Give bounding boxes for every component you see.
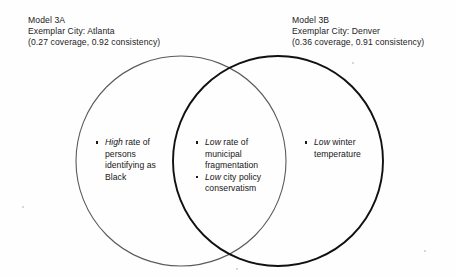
region-text-left-only: High rate of persons identifying as Blac… [96,137,174,183]
list-item: Low city policy conservatism [196,172,284,195]
bullet-square-icon [96,141,98,143]
venn-diagram-figure: Model 3A Exemplar City: Atlanta (0.27 co… [0,0,457,277]
bullet-square-icon [196,176,198,178]
emphasis-term: Low [205,172,221,182]
bullet-square-icon [305,141,307,143]
emphasis-term: Low [314,137,330,147]
list-item: High rate of persons identifying as Blac… [96,137,174,183]
emphasis-term: High [105,137,123,147]
region-text-intersection: Low rate of municipal fragmentation Low … [196,137,284,195]
list-item: Low winter temperature [305,137,383,160]
list-item: Low rate of municipal fragmentation [196,137,284,172]
region-text-right-only: Low winter temperature [305,137,383,160]
bullet-square-icon [196,141,198,143]
emphasis-term: Low [205,137,221,147]
